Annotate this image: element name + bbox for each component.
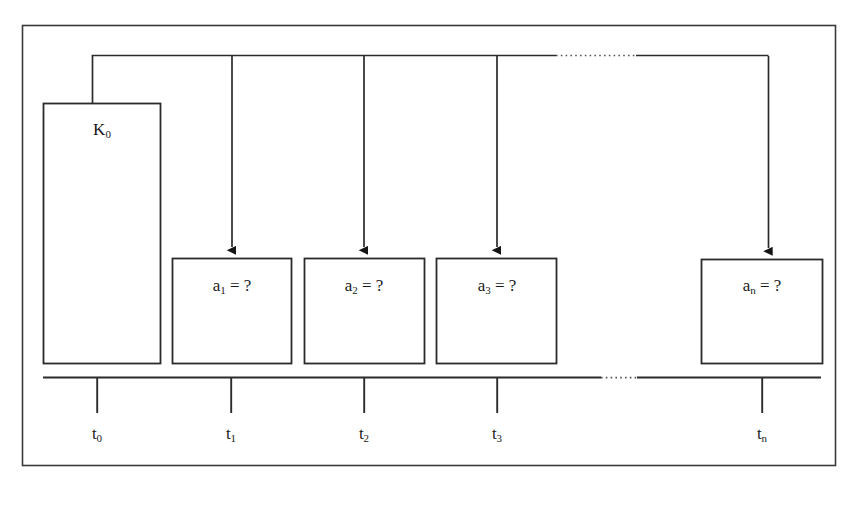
t3-label-sub: 3 bbox=[497, 432, 503, 444]
payment-box-label-a1: a1 = ? bbox=[213, 277, 252, 296]
an-label-tail: = ? bbox=[756, 276, 782, 295]
outer-frame bbox=[23, 26, 836, 466]
a1-label-tail: = ? bbox=[226, 276, 252, 295]
diagram-canvas: K0 a1 = ? a2 = ? a3 = ? an = ? t0 t1 t2 … bbox=[0, 0, 856, 508]
payment-box-a2 bbox=[305, 259, 425, 364]
payment-box-label-an: an = ? bbox=[743, 277, 782, 296]
an-label-main: a bbox=[743, 276, 751, 295]
t0-label-sub: 0 bbox=[97, 432, 103, 444]
timeline-label-t0: t0 bbox=[92, 425, 102, 444]
a2-label-main: a bbox=[345, 276, 353, 295]
k0-label-main: K bbox=[93, 120, 105, 139]
k0-box-label: K0 bbox=[93, 121, 111, 140]
a2-label-tail: = ? bbox=[358, 276, 384, 295]
timeline-label-t1: t1 bbox=[226, 425, 236, 444]
payment-box-a1 bbox=[173, 259, 292, 364]
t2-label-sub: 2 bbox=[364, 432, 370, 444]
payment-box-label-a2: a2 = ? bbox=[345, 277, 384, 296]
tn-label-sub: n bbox=[762, 432, 768, 444]
timeline-label-tn: tn bbox=[757, 425, 767, 444]
t1-label-sub: 1 bbox=[231, 432, 237, 444]
timeline-label-t2: t2 bbox=[359, 425, 369, 444]
a3-label-tail: = ? bbox=[491, 276, 517, 295]
a1-label-main: a bbox=[213, 276, 221, 295]
payment-box-label-a3: a3 = ? bbox=[478, 277, 517, 296]
diagram-svg bbox=[0, 0, 856, 508]
k0-label-sub: 0 bbox=[105, 128, 111, 140]
payment-box-a3 bbox=[437, 259, 557, 364]
a3-label-main: a bbox=[478, 276, 486, 295]
timeline-label-t3: t3 bbox=[492, 425, 502, 444]
k0-box bbox=[44, 104, 161, 364]
